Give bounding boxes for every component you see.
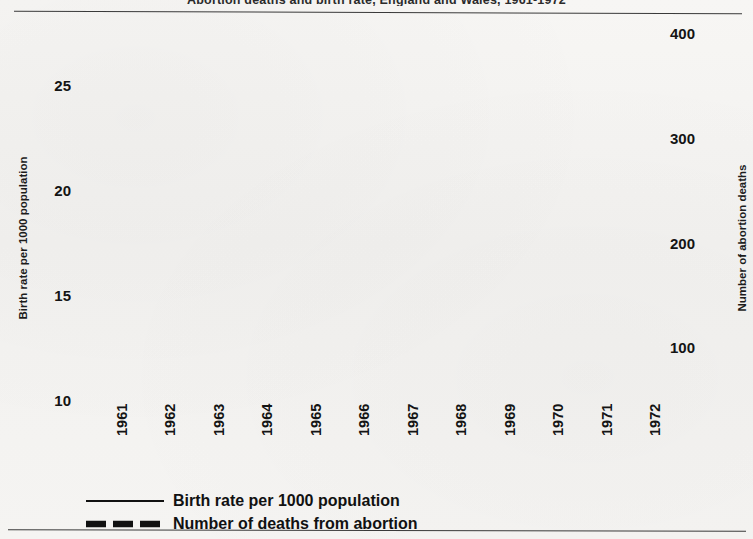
left-tick-label: 20 xyxy=(37,182,71,199)
left-tick-label: 10 xyxy=(37,392,71,409)
right-tick-label: 400 xyxy=(670,25,714,42)
left-tick-label: 15 xyxy=(37,287,71,304)
right-tick-label: 100 xyxy=(670,339,714,356)
chart-figure: Abortion deaths and birth rate, England … xyxy=(0,0,753,539)
x-tick-label: 1964 xyxy=(259,404,275,436)
data-series xyxy=(107,35,640,389)
right-tick-label: 200 xyxy=(670,235,714,252)
chart-title: Abortion deaths and birth rate, England … xyxy=(0,0,753,6)
x-tick-label: 1970 xyxy=(550,404,566,436)
x-tick-label: 1967 xyxy=(405,404,421,436)
x-tick-label: 1972 xyxy=(647,404,663,436)
x-tick-label: 1963 xyxy=(211,404,227,436)
right-tick-label: 300 xyxy=(670,130,714,147)
left-axis-title: Birth rate per 1000 population xyxy=(17,123,29,353)
x-tick-label: 1971 xyxy=(599,404,615,436)
x-tick-label: 1969 xyxy=(502,404,518,436)
x-tick-label: 1961 xyxy=(114,404,130,436)
legend-key-abortion-deaths xyxy=(86,517,164,531)
left-tick-label: 25 xyxy=(37,77,71,94)
x-tick-label: 1962 xyxy=(162,404,178,436)
legend-item: Number of deaths from abortion xyxy=(86,512,556,535)
right-axis-title: Number of abortion deaths xyxy=(736,123,748,353)
x-tick-label: 1968 xyxy=(453,404,469,436)
legend-key-birth-rate xyxy=(86,494,164,508)
x-tick-label: 1965 xyxy=(308,404,324,436)
legend-label: Birth rate per 1000 population xyxy=(173,492,400,510)
legend-item: Birth rate per 1000 population xyxy=(86,489,556,512)
x-tick-label: 1966 xyxy=(356,404,372,436)
plot-canvas xyxy=(0,0,753,539)
chart-legend: Birth rate per 1000 population Number of… xyxy=(86,489,556,535)
legend-label: Number of deaths from abortion xyxy=(173,515,417,533)
